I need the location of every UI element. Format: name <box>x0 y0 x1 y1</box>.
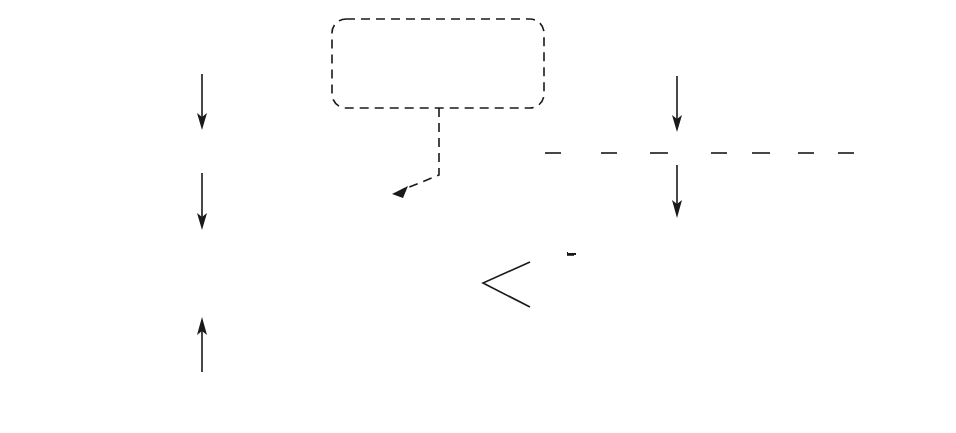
online-box-connector-arrowhead <box>392 186 408 198</box>
left-pipeline <box>197 74 207 372</box>
arrow-words-to-phones <box>672 76 682 132</box>
expanded-phone-graph <box>483 253 576 307</box>
arrow-canonical-to-expanded <box>672 165 682 218</box>
online-information-box <box>332 19 544 198</box>
arrow-pronunciation-rules <box>197 173 207 230</box>
arrow-acoustic-scores <box>197 317 207 372</box>
pronunciation-diagram <box>0 0 956 433</box>
arrow-dictionary <box>197 74 207 130</box>
online-box-border <box>332 19 544 108</box>
online-box-connector <box>402 108 439 190</box>
